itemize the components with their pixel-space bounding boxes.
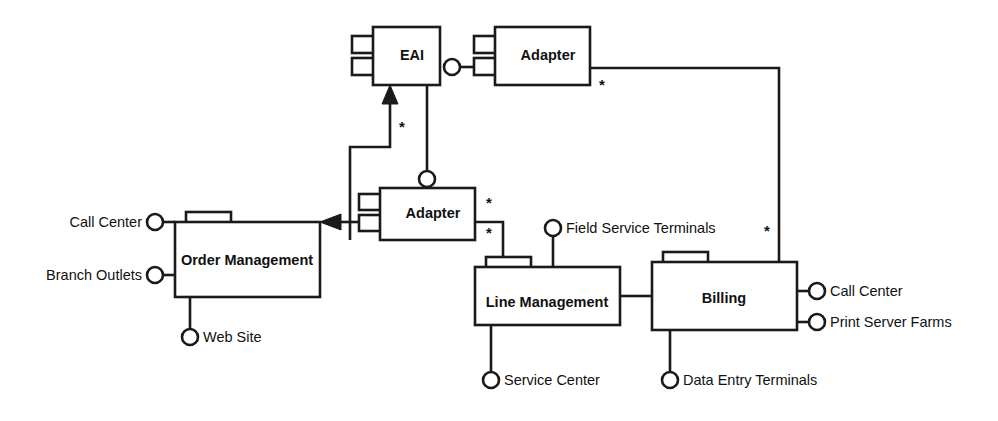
component-label-adapter-lower: Adapter [406, 205, 461, 221]
component-label-eai: EAI [400, 47, 424, 63]
diagram-canvas: *****EAIAdapterAdapterOrder ManagementLi… [0, 0, 998, 421]
interface-label-branch-outlets: Branch Outlets [46, 267, 142, 283]
component-label-billing: Billing [702, 290, 746, 306]
component-layer [175, 27, 797, 330]
interface-lollipop-eai-adapter-top-iface[interactable] [444, 59, 460, 75]
multiplicity-label-adapter-top-to-billing-far: * [764, 222, 770, 239]
component-label-line-management: Line Management [486, 294, 609, 310]
interface-label-data-entry-terminals: Data Entry Terminals [683, 372, 817, 388]
multiplicity-label-adapter-lower-to-line-management-2: * [486, 224, 492, 241]
interface-lollipop-print-server-farms[interactable] [809, 314, 825, 330]
interface-label-call-center-order: Call Center [69, 214, 142, 230]
interface-label-field-service-terminals: Field Service Terminals [566, 220, 716, 236]
interface-lollipop-adapter-lower-top[interactable] [419, 171, 435, 187]
arrowhead-adapter-lower-to-order-management [320, 214, 341, 230]
interface-label-print-server-farms: Print Server Farms [830, 314, 952, 330]
interface-lollipop-service-center[interactable] [483, 372, 499, 388]
multiplicity-label-adapter-lower-to-eai: * [399, 118, 405, 135]
uml-component-diagram: *****EAIAdapterAdapterOrder ManagementLi… [0, 0, 998, 421]
component-label-adapter-top: Adapter [521, 47, 576, 63]
interface-lollipop-call-center-order[interactable] [147, 214, 163, 230]
multiplicity-label-adapter-lower-to-line-management: * [486, 194, 492, 211]
interface-lollipop-branch-outlets[interactable] [147, 267, 163, 283]
arrowhead-adapter-lower-to-eai [382, 85, 398, 104]
interface-lollipop-call-center-billing[interactable] [809, 283, 825, 299]
interface-lollipop-data-entry-terminals[interactable] [662, 372, 678, 388]
interface-label-web-site: Web Site [203, 329, 262, 345]
multiplicity-label-adapter-top-to-billing: * [599, 76, 605, 93]
interface-label-service-center: Service Center [504, 372, 600, 388]
component-label-order-management: Order Management [181, 252, 313, 268]
interface-label-call-center-billing: Call Center [830, 283, 903, 299]
interface-lollipop-field-service-terminals[interactable] [545, 220, 561, 236]
interface-lollipop-web-site[interactable] [182, 329, 198, 345]
